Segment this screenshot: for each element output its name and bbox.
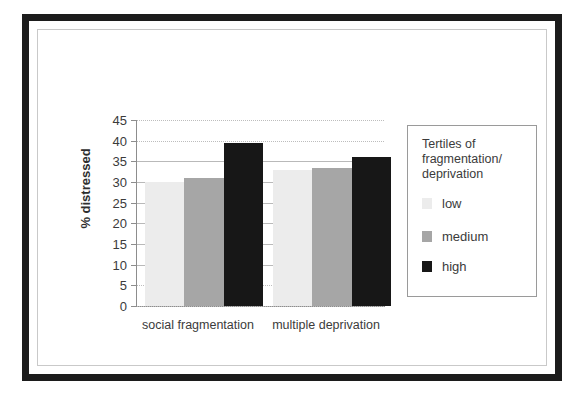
bar-social-fragmentation-medium	[184, 178, 223, 306]
y-axis-tick-mark	[131, 285, 137, 286]
y-axis-tick-label: 0	[97, 300, 127, 313]
x-axis-category-label: multiple deprivation	[261, 318, 391, 332]
y-axis-tick-label: 40	[97, 135, 127, 148]
bar-multiple-deprivation-low	[273, 170, 312, 306]
y-axis-tick-mark	[131, 161, 137, 162]
figure-outer-frame: 454035302520151050 % distressed social f…	[22, 14, 562, 381]
y-axis-tick-label: 15	[97, 238, 127, 251]
y-axis-tick-mark	[131, 265, 137, 266]
y-axis-tick-mark	[131, 182, 137, 183]
legend-label: low	[442, 196, 462, 211]
y-axis-tick-label: 25	[97, 197, 127, 210]
gridline	[137, 306, 384, 307]
y-axis-tick-label: 5	[97, 279, 127, 292]
y-axis-tick-mark	[131, 120, 137, 121]
y-axis-tick-mark	[131, 223, 137, 224]
gridline	[137, 141, 384, 142]
y-axis-tick-mark	[131, 306, 137, 307]
y-axis-tick-label: 45	[97, 114, 127, 127]
legend-label: medium	[442, 229, 488, 244]
y-axis-tick-labels: 454035302520151050	[91, 21, 127, 388]
legend-swatch-high-icon	[422, 261, 432, 272]
legend-swatch-medium-icon	[422, 231, 432, 242]
bar-multiple-deprivation-medium	[312, 168, 351, 306]
x-axis-category-label: social fragmentation	[133, 318, 263, 332]
y-axis-title: % distressed	[78, 129, 93, 249]
bar-social-fragmentation-low	[145, 182, 184, 306]
legend-title: Tertiles of fragmentation/ deprivation	[422, 137, 530, 182]
y-axis-tick-label: 30	[97, 176, 127, 189]
gridline	[137, 120, 384, 121]
bar-multiple-deprivation-high	[352, 157, 391, 306]
legend: Tertiles of fragmentation/ deprivation l…	[407, 125, 537, 297]
bar-social-fragmentation-high	[224, 143, 263, 306]
legend-entry-high[interactable]: high	[422, 259, 532, 275]
y-axis-tick-label: 35	[97, 155, 127, 168]
y-axis-tick-mark	[131, 141, 137, 142]
bar-chart: 454035302520151050 % distressed social f…	[29, 21, 569, 388]
y-axis-tick-mark	[131, 244, 137, 245]
y-axis-tick-mark	[131, 203, 137, 204]
y-axis-tick-label: 20	[97, 217, 127, 230]
legend-entry-low[interactable]: low	[422, 196, 532, 212]
y-axis-tick-label: 10	[97, 259, 127, 272]
legend-entry-medium[interactable]: medium	[422, 229, 532, 245]
plot-area	[137, 120, 384, 306]
legend-swatch-low-icon	[422, 198, 432, 209]
legend-label: high	[442, 259, 467, 274]
